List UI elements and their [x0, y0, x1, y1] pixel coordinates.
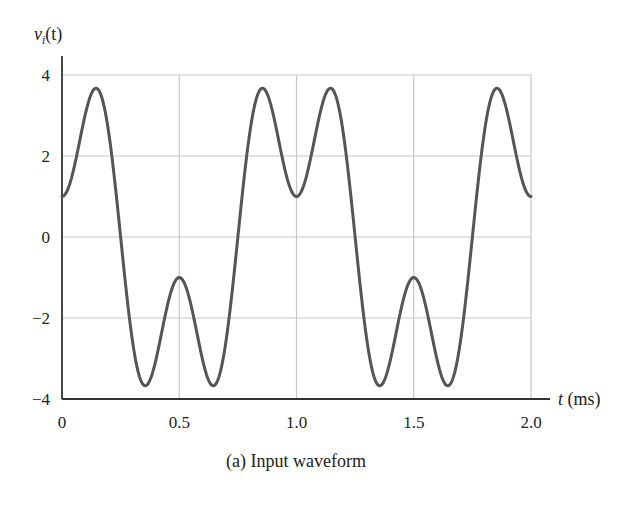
y-axis-label-var: v: [34, 24, 42, 44]
y-tick-label: 2: [42, 147, 51, 166]
y-tick-label: −4: [32, 390, 51, 409]
x-tick-labels: 00.51.01.52.0: [58, 413, 542, 432]
x-tick-label: 1.0: [286, 413, 307, 432]
x-tick-label: 0.5: [169, 413, 190, 432]
x-axis-label-unit: (ms): [563, 389, 601, 410]
axes: [62, 56, 550, 399]
y-tick-label: 4: [42, 66, 51, 85]
chart-caption: (a) Input waveform: [226, 451, 366, 472]
chart-figure: 420−2−4 00.51.01.52.0 vi(t) t (ms) (a) I…: [0, 0, 640, 505]
y-tick-label: 0: [42, 228, 51, 247]
x-axis-label: t (ms): [558, 389, 601, 410]
y-tick-label: −2: [32, 309, 50, 328]
grid-lines: [62, 75, 531, 399]
x-tick-label: 0: [58, 413, 67, 432]
x-tick-label: 1.5: [403, 413, 424, 432]
y-axis-label: vi(t): [34, 24, 62, 47]
x-tick-label: 2.0: [520, 413, 541, 432]
y-axis-label-arg: (t): [45, 24, 62, 45]
y-tick-labels: 420−2−4: [32, 66, 51, 409]
